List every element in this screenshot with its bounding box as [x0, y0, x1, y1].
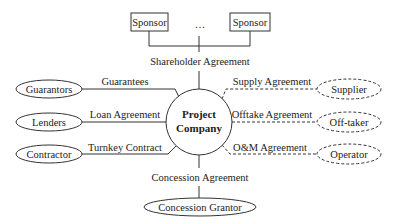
supply-agreement-label: Supply Agreement — [233, 76, 312, 87]
supply-edge — [222, 89, 317, 99]
project-finance-diagram: Sponsor Sponsor … Shareholder Agreement … — [0, 0, 397, 224]
turnkey-contract-label: Turnkey Contract — [88, 142, 162, 153]
sponsor-label-1: Sponsor — [132, 17, 167, 28]
concession-grantor-label: Concession Grantor — [158, 202, 242, 213]
project-company-line1: Project — [182, 108, 216, 120]
contractor-label: Contractor — [27, 149, 72, 160]
om-agreement-label: O&M Agreement — [233, 142, 307, 153]
shareholder-agreement-label: Shareholder Agreement — [150, 56, 250, 67]
offtake-agreement-label: Offtake Agreement — [232, 109, 313, 120]
ellipsis: … — [195, 19, 206, 30]
supplier-label: Supplier — [331, 84, 367, 95]
project-company-line2: Company — [176, 122, 222, 134]
guarantees-label: Guarantees — [101, 76, 148, 87]
concession-agreement-label: Concession Agreement — [151, 172, 248, 183]
operator-label: Operator — [330, 149, 368, 160]
lenders-label: Lenders — [32, 117, 66, 128]
sponsor-label-2: Sponsor — [233, 17, 268, 28]
guarantors-label: Guarantors — [26, 84, 73, 95]
loan-agreement-label: Loan Agreement — [90, 109, 160, 120]
offtaker-label: Off-taker — [330, 117, 369, 128]
guarantees-edge — [82, 89, 180, 99]
